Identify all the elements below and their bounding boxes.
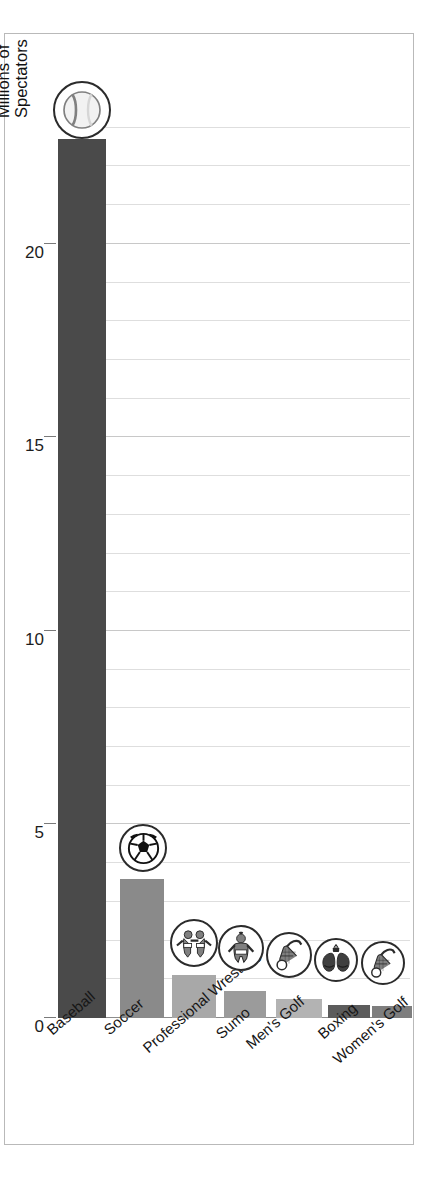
y-axis-tick-mark — [44, 823, 56, 824]
golf-bag-icon — [270, 936, 308, 974]
sumo-wrestler-icon-medallion — [218, 925, 264, 971]
gridline-minor — [58, 707, 410, 708]
gridline-minor — [58, 320, 410, 321]
baseball-icon — [58, 86, 106, 134]
golf-bag-icon-medallion — [361, 941, 405, 985]
gridline-minor — [58, 978, 410, 979]
y-axis-tick-mark — [44, 436, 56, 437]
bar[interactable] — [172, 975, 216, 1018]
y-axis-tick-mark — [44, 1017, 56, 1018]
gridline-minor — [58, 862, 410, 863]
soccer-ball-icon — [124, 829, 163, 868]
gridline-minor — [58, 475, 410, 476]
gridline-minor — [58, 165, 410, 166]
gridline-minor — [58, 282, 410, 283]
gridline-major — [58, 823, 410, 824]
gridline-minor — [58, 553, 410, 554]
gridline-minor — [58, 746, 410, 747]
boxing-gloves-icon-medallion — [314, 938, 358, 982]
golf-bag-icon-medallion — [266, 932, 312, 978]
bar[interactable] — [120, 879, 164, 1018]
soccer-ball-icon-medallion — [119, 824, 167, 872]
bar[interactable] — [224, 991, 266, 1018]
gridline-major — [58, 436, 410, 437]
gridline-minor — [58, 398, 410, 399]
boxing-gloves-icon — [318, 942, 354, 978]
gridline-minor — [58, 591, 410, 592]
plot-area — [58, 120, 410, 1018]
wrestlers-icon-medallion — [170, 919, 218, 967]
gridline-minor — [58, 127, 410, 128]
y-axis-title: Millions of Spectators — [0, 0, 31, 118]
sumo-wrestler-icon — [222, 929, 260, 967]
y-axis-tick-mark — [44, 243, 56, 244]
gridline-minor — [58, 901, 410, 902]
y-axis-tick-mark — [44, 630, 56, 631]
bar[interactable] — [58, 139, 106, 1018]
gridline-major — [58, 243, 410, 244]
gridline-major — [58, 630, 410, 631]
bar[interactable] — [328, 1005, 370, 1018]
baseball-icon-medallion — [53, 81, 111, 139]
y-axis-title-text: Millions of Spectators — [0, 39, 30, 118]
gridline-minor — [58, 785, 410, 786]
wrestlers-icon — [175, 924, 214, 963]
bar[interactable] — [276, 999, 322, 1018]
gridline-minor — [58, 514, 410, 515]
gridline-minor — [58, 359, 410, 360]
gridline-minor — [58, 204, 410, 205]
golf-bag-icon — [365, 945, 401, 981]
y-axis-tick-labels: 05101520 — [10, 120, 44, 1018]
gridline-minor — [58, 669, 410, 670]
bar[interactable] — [372, 1006, 412, 1018]
